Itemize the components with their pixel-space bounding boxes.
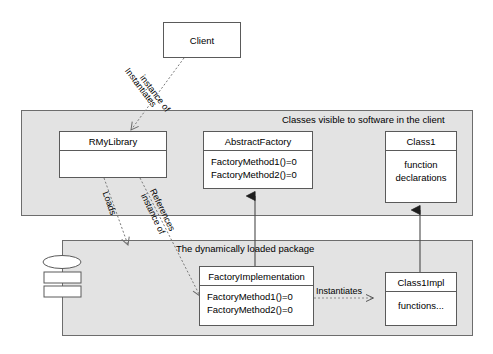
disk-stack-icon <box>43 256 81 298</box>
box-rmylibrary[interactable]: RMyLibrary <box>59 131 167 178</box>
box-client[interactable]: Client <box>163 22 241 58</box>
box-class1impl-title: Class1Impl <box>386 273 456 292</box>
member-line: declarations <box>386 171 456 184</box>
panel-label-dynamic-package: The dynamically loaded package <box>176 243 314 254</box>
member-line: FactoryMethod2()=0 <box>200 303 313 316</box>
box-class1impl[interactable]: Class1Impl functions... <box>385 272 457 326</box>
box-factoryimplementation[interactable]: FactoryImplementation FactoryMethod1()=0… <box>199 266 314 326</box>
box-class1-title: Class1 <box>386 132 456 151</box>
box-rmylibrary-members <box>60 151 166 155</box>
box-abstractfactory-title: AbstractFactory <box>204 132 312 151</box>
edge-label-instantiates-factory: Instantiates <box>316 286 362 296</box>
box-class1[interactable]: Class1 function declarations <box>385 131 457 203</box>
member-line: FactoryMethod1()=0 <box>200 290 313 303</box>
panel-label-classes-visible: Classes visible to software in the clien… <box>282 114 445 125</box>
box-client-title: Client <box>190 35 214 46</box>
member-line: FactoryMethod1()=0 <box>204 155 312 168</box>
box-class1impl-members: functions... <box>386 292 456 312</box>
box-class1-members: function declarations <box>386 151 456 184</box>
box-factoryimplementation-title: FactoryImplementation <box>200 267 313 286</box>
box-factoryimplementation-members: FactoryMethod1()=0 FactoryMethod2()=0 <box>200 286 313 316</box>
member-line: function <box>386 158 456 171</box>
uml-diagram-canvas: Classes visible to software in the clien… <box>0 0 493 354</box>
box-rmylibrary-title: RMyLibrary <box>60 132 166 151</box>
box-abstractfactory[interactable]: AbstractFactory FactoryMethod1()=0 Facto… <box>203 131 313 189</box>
box-abstractfactory-members: FactoryMethod1()=0 FactoryMethod2()=0 <box>204 151 312 181</box>
member-line: functions... <box>386 299 456 312</box>
member-line: FactoryMethod2()=0 <box>204 168 312 181</box>
